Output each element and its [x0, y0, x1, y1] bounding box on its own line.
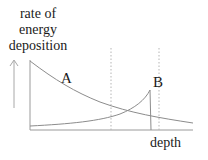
curve-a-label: A: [61, 70, 72, 87]
curve-b: [30, 90, 151, 130]
up-arrow-icon: [10, 60, 18, 108]
x-axis-label: depth: [150, 135, 181, 151]
curve-b-label: B: [153, 74, 163, 91]
